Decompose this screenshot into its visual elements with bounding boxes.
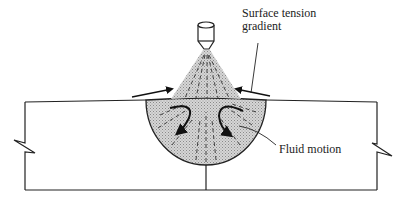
right-surface-arrow	[236, 89, 270, 96]
left-break-mark	[14, 102, 35, 190]
fluid-motion-label: Fluid motion	[279, 142, 341, 156]
left-surface-arrow	[132, 89, 172, 97]
right-break-mark	[372, 102, 392, 190]
surface-tension-leader	[251, 43, 258, 93]
surface-tension-label-line2: gradient	[242, 19, 282, 33]
electrode	[198, 22, 214, 49]
weld-pool-diagram: Surface tension gradient Fluid motion	[0, 0, 402, 206]
arc-plasma-cone	[171, 50, 241, 99]
surface-tension-label-line1: Surface tension	[242, 6, 316, 20]
